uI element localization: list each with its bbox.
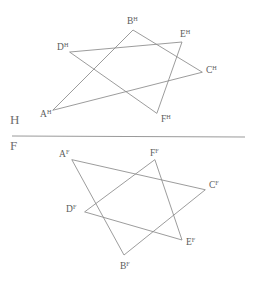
vertex-superscript: H bbox=[212, 64, 217, 71]
vertex-superscript: H bbox=[186, 28, 191, 35]
geometry-svg: HF AHBHCHDHEHFHAFBFCFDFEFFF bbox=[0, 0, 255, 282]
vertex-superscript: F bbox=[215, 179, 219, 186]
h-vertex-label-a: AH bbox=[40, 108, 52, 119]
vertex-superscript: F bbox=[66, 148, 70, 155]
vertex-superscript: H bbox=[133, 15, 138, 22]
vertex-superscript: H bbox=[64, 41, 69, 48]
h-triangle-def bbox=[70, 42, 182, 113]
f-vertex-label-b: BF bbox=[120, 260, 130, 271]
h-vertex-label-d: DH bbox=[57, 41, 69, 52]
h-vertex-label-e: EH bbox=[180, 28, 191, 39]
f-triangle-def bbox=[85, 160, 182, 240]
vertex-superscript: F bbox=[155, 147, 159, 154]
h-vertex-label-c: CH bbox=[206, 64, 217, 75]
vertex-superscript: F bbox=[192, 236, 196, 243]
plane-label-f: F bbox=[10, 138, 18, 153]
vertex-superscript: F bbox=[126, 260, 130, 267]
h-vertex-label-f: FH bbox=[161, 113, 171, 124]
f-vertex-label-d: DF bbox=[66, 203, 77, 214]
horizontal-projection-group bbox=[53, 30, 202, 113]
vertex-superscript: F bbox=[73, 203, 77, 210]
drawing-canvas: HF AHBHCHDHEHFHAFBFCFDFEFFF bbox=[0, 0, 255, 282]
f-vertex-label-f: FF bbox=[150, 147, 159, 158]
f-vertex-label-e: EF bbox=[186, 236, 196, 247]
plane-label-h: H bbox=[10, 112, 20, 127]
vertex-labels-group: AHBHCHDHEHFHAFBFCFDFEFFF bbox=[40, 15, 219, 271]
ground-line bbox=[12, 136, 245, 137]
vertex-superscript: H bbox=[47, 108, 52, 115]
vertex-superscript: H bbox=[166, 113, 171, 120]
f-vertex-label-c: CF bbox=[209, 179, 219, 190]
h-vertex-label-b: BH bbox=[127, 15, 138, 26]
f-vertex-label-a: AF bbox=[59, 148, 70, 159]
